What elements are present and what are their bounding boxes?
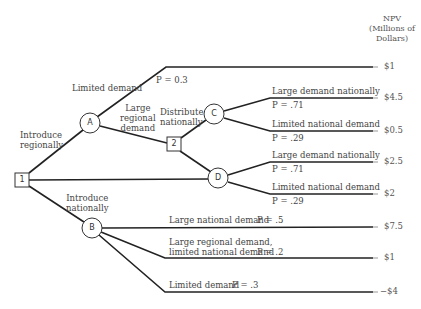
D-large-label: Large demand nationally <box>272 150 380 160</box>
introduce-nationally-line1: Introduce <box>66 193 109 203</box>
introduce-regionally-label: Introduce regionally <box>20 130 63 150</box>
B-limited-label: Limited demand <box>169 280 239 290</box>
npv-value: $7.5 <box>384 221 403 231</box>
npv-header-line2: (Millions of <box>362 24 421 34</box>
C-large-label: Large demand nationally <box>272 86 380 96</box>
npv-value: $1 <box>384 61 395 71</box>
limited-demand-A-label: Limited demand <box>72 83 142 93</box>
distribute-line1: Distribute <box>160 107 203 117</box>
C-limited-prob: P = .29 <box>272 133 304 143</box>
large-regional-line1: Large <box>120 103 156 113</box>
node-A-label: A <box>80 118 100 127</box>
npv-value: $4.5 <box>384 92 403 102</box>
node-B-label: B <box>82 223 102 232</box>
introduce-regionally-line2: regionally <box>20 140 63 150</box>
D-limited-label: Limited national demand <box>272 182 380 192</box>
B-large-label: Large national demand <box>169 215 269 225</box>
large-regional-demand-label: Large regional demand <box>120 103 156 133</box>
distribute-line2: nationally <box>160 117 203 127</box>
introduce-regionally-line1: Introduce <box>20 130 63 140</box>
distribute-nationally-label: Distribute nationally <box>160 107 203 127</box>
npv-value: $2 <box>384 188 395 198</box>
npv-value: $0.5 <box>384 125 403 135</box>
node-D-label: D <box>208 173 228 182</box>
node-1-label: 1 <box>12 175 32 184</box>
npv-value: −$4 <box>380 286 398 296</box>
D-large-prob: P = .71 <box>272 164 304 174</box>
D-limited-prob: P = .29 <box>272 196 304 206</box>
npv-header: NPV (Millions of Dollars) <box>362 14 421 44</box>
B-mixed-line1: Large regional demand, <box>169 237 274 247</box>
p-limited-A-label: P = 0.3 <box>156 75 188 85</box>
npv-header-line1: NPV <box>362 14 421 24</box>
large-regional-line2: regional <box>120 113 156 123</box>
C-limited-label: Limited national demand <box>272 119 380 129</box>
npv-value: $1 <box>384 252 395 262</box>
introduce-nationally-label: Introduce nationally <box>66 193 109 213</box>
node-2-label: 2 <box>164 139 184 148</box>
C-large-prob: P = .71 <box>272 100 304 110</box>
introduce-nationally-line2: nationally <box>66 203 109 213</box>
npv-header-line3: Dollars) <box>362 34 421 44</box>
large-regional-line3: demand <box>120 123 156 133</box>
npv-value: $2.5 <box>384 156 403 166</box>
B-mixed-prob: P = .2 <box>257 247 283 257</box>
B-limited-prob: P = .3 <box>232 280 258 290</box>
node-C-label: C <box>204 109 224 118</box>
B-large-prob: P = .5 <box>257 215 283 225</box>
